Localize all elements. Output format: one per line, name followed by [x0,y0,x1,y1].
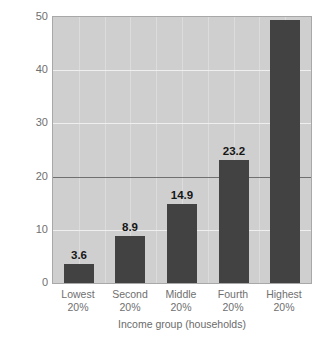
x-label-line-1: Lowest [61,288,94,300]
y-axis-tick-labels: 01020304050 [22,0,48,337]
y-axis-tick-label: 0 [24,277,48,288]
x-axis-tick-labels: Lowest20%Second20%Middle20%Fourth20%High… [52,288,312,318]
bar [219,160,249,283]
bar-value-label: 3.6 [52,249,106,261]
y-axis-tick-label: 20 [24,171,48,182]
x-label-line-2: 20% [104,301,156,314]
y-axis-title: Personal income received (percent) [0,0,14,44]
y-axis-tick-label: 10 [24,224,48,235]
x-label-line-2: 20% [52,301,104,314]
x-label-line-1: Second [112,288,148,300]
y-axis-tick-label: 50 [24,11,48,22]
x-axis-tick-label: Fourth20% [207,288,259,314]
x-label-line-1: Highest [266,288,302,300]
y-axis-tick-label: 30 [24,117,48,128]
plot-area: 3.68.914.923.249.4 [52,16,312,284]
x-axis-title: Income group (households) [52,318,312,331]
bar-value-label: 8.9 [103,221,157,233]
y-axis-tick-label: 40 [24,64,48,75]
x-label-line-1: Fourth [218,288,248,300]
bar [64,264,94,283]
bar [167,204,197,283]
bar-value-label: 14.9 [155,189,209,201]
bar-chart: Personal income received (percent) 01020… [0,0,322,337]
x-label-line-2: 20% [258,301,310,314]
vertical-gridline [105,17,106,283]
vertical-gridline [79,17,80,283]
vertical-gridline [156,17,157,283]
bar [270,20,300,283]
x-label-line-2: 20% [207,301,259,314]
bar [115,236,145,283]
bar-value-label: 23.2 [207,145,261,157]
x-axis-tick-label: Highest20% [258,288,310,314]
x-axis-tick-label: Middle20% [155,288,207,314]
x-label-line-1: Middle [166,288,197,300]
x-axis-tick-label: Second20% [104,288,156,314]
x-label-line-2: 20% [155,301,207,314]
x-axis-tick-label: Lowest20% [52,288,104,314]
bar-value-label: 49.4 [258,16,312,17]
